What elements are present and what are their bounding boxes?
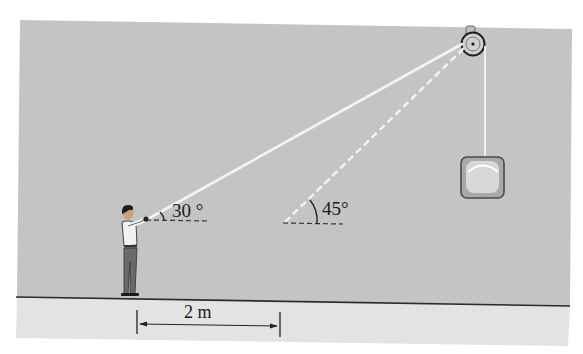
distance-label: 2 m xyxy=(184,302,212,322)
weight-block-icon xyxy=(461,157,504,198)
angle-label-30: 30 ° xyxy=(172,200,203,221)
pulley-icon xyxy=(462,33,485,56)
angle-label-45: 45° xyxy=(322,198,349,219)
pulley-diagram: 30 ° 45° 2 m xyxy=(0,0,583,354)
